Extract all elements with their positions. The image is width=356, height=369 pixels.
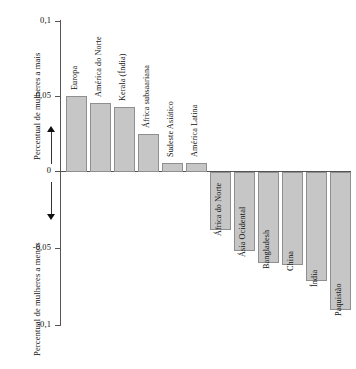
bar-america-do-norte: [90, 103, 111, 172]
arrow-down-fewer-women: [46, 182, 57, 220]
y-tick-mark-3: [55, 248, 60, 249]
bar-india: [306, 172, 327, 281]
y-tick-mark-1: [55, 96, 60, 97]
bar-label-china: China: [286, 251, 295, 271]
bar-europa: [66, 96, 87, 172]
y-tick-label-2: 0: [15, 165, 51, 175]
bar-label-bangladesh: Bangladesh: [262, 230, 271, 269]
bar-america-latina: [186, 163, 207, 172]
arrow-up-shaft: [51, 132, 52, 164]
y-tick-label-0: 0,1: [15, 15, 51, 25]
bar-label-africa-subsaariana: África subsaariana: [142, 65, 151, 128]
bar-label-europa: Europa: [70, 66, 79, 90]
bar-kerala-india: [114, 107, 135, 172]
axis-caption-fewer-women: Percentual de mulheres a menos: [32, 242, 42, 356]
y-tick-mark-4: [55, 325, 60, 326]
bar-label-america-do-norte: América do Norte: [94, 36, 103, 97]
arrow-down-shaft: [51, 182, 52, 214]
bar-label-kerala-india: Kerala (Índia): [118, 53, 127, 101]
y-tick-mark-2: [55, 171, 60, 172]
bar-label-africa-do-norte: África do Norte: [214, 183, 223, 236]
bar-sudeste-asiatico: [162, 163, 183, 172]
arrow-up-more-women: [46, 126, 57, 164]
bar-label-america-latina: América Latina: [190, 104, 199, 157]
bar-label-paquistao: Paquistão: [334, 283, 343, 316]
y-tick-mark-0: [55, 21, 60, 22]
axis-caption-more-women: Percentual de mulheres a mais: [32, 53, 42, 160]
arrow-down-icon: [47, 214, 55, 220]
y-axis-line: [60, 20, 61, 326]
gender-ratio-bar-chart: 0,1 0,05 0 -0,05 -0,1 Percentual de mulh…: [0, 0, 356, 369]
bar-label-india: Índia: [310, 270, 319, 287]
bar-africa-subsaariana: [138, 134, 159, 172]
bar-label-asia-ocidental: Ásia Ocidental: [238, 207, 247, 257]
bar-label-sudeste-asiatico: Sudeste Asiático: [166, 101, 175, 157]
